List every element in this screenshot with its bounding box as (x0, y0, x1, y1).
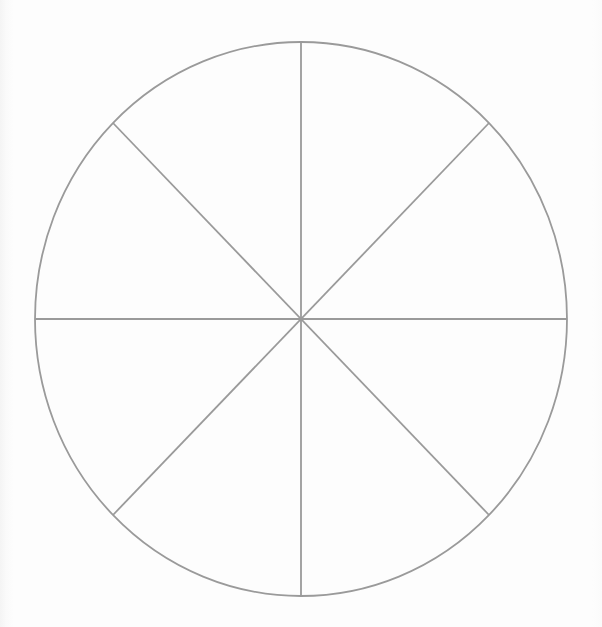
blank-pie-chart-figure (0, 0, 602, 627)
pie-sector-2 (301, 123, 567, 319)
page-canvas (0, 0, 602, 627)
pie-sector-5 (113, 319, 301, 596)
pie-sector-8 (113, 42, 301, 319)
pie-sector-1 (301, 42, 489, 319)
pie-sector-7 (35, 123, 301, 319)
pie-sector-6 (35, 319, 301, 515)
pie-sector-4 (301, 319, 489, 596)
pie-sector-3 (301, 319, 567, 515)
